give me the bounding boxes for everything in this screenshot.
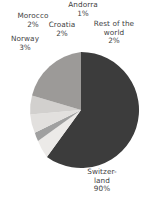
pie-label-norway-value: 3% bbox=[2, 44, 48, 53]
pie-label-norway: Norway 3% bbox=[2, 35, 48, 52]
pie-chart: Morocco 2% Andorra 1% Croatia 2% Rest of… bbox=[0, 0, 147, 208]
pie-slice-group bbox=[30, 52, 139, 168]
pie-label-andorra: Andorra 1% bbox=[62, 1, 104, 18]
pie-label-switzerland-value: 90% bbox=[74, 185, 130, 194]
pie-label-rest-of-the-world-value: 2% bbox=[83, 37, 145, 46]
pie-label-switzerland: Switzer- land 90% bbox=[74, 168, 130, 194]
pie-label-rest-of-the-world: Rest of the world 2% bbox=[83, 20, 145, 46]
pie-label-andorra-value: 1% bbox=[62, 10, 104, 19]
pie-label-croatia: Croatia 2% bbox=[42, 21, 82, 38]
pie-label-croatia-value: 2% bbox=[42, 30, 82, 39]
